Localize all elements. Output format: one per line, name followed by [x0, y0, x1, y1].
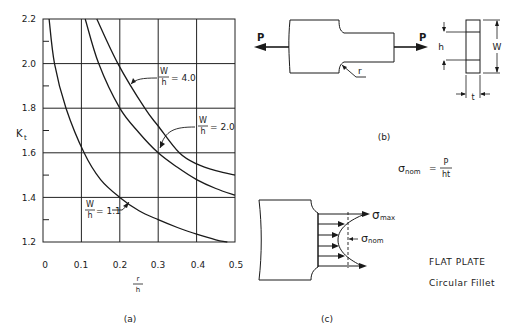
y-tick-1.2: 1.2 — [22, 237, 36, 247]
load-label-right: P — [419, 32, 426, 43]
svg-text:W: W — [160, 67, 168, 76]
x-axis-label: r h — [133, 275, 143, 294]
dim-w-label: W — [493, 42, 502, 52]
equals-sign: = — [429, 163, 437, 173]
annotation-w-h-1.1: W h = 1.1 — [85, 200, 129, 220]
sigma-nom-c-sub: nom — [368, 237, 384, 245]
y-tick-2.0: 2.0 — [22, 59, 37, 69]
y-axis-label: K t — [16, 128, 27, 142]
svg-text:= 2.0: = 2.0 — [210, 122, 235, 132]
curve-series-1 — [85, 19, 235, 195]
diagram-b-labels: P P r h W t (b) — [257, 32, 502, 142]
caption-line-2: Circular Fillet — [429, 278, 495, 288]
sigma-nom-sub: nom — [405, 168, 421, 176]
sigma-max-sub: max — [380, 214, 395, 222]
svg-text:= 1.1: = 1.1 — [96, 206, 121, 216]
svg-text:= 4.0: = 4.0 — [171, 73, 196, 83]
curve-series-2 — [97, 19, 235, 175]
figure-caption: FLAT PLATE Circular Fillet — [429, 257, 495, 288]
panel-label-b: (b) — [378, 132, 391, 142]
cross-section — [466, 20, 480, 73]
x-tick-0.2: 0.2 — [113, 260, 127, 270]
svg-text:W: W — [86, 200, 94, 209]
y-label-sub: t — [24, 134, 27, 142]
y-tick-2.2: 2.2 — [22, 14, 36, 24]
nominal-stress-formula: σ nom = P ht — [398, 158, 452, 179]
svg-text:h: h — [87, 211, 92, 220]
arrowhead-right-icon — [416, 43, 428, 51]
arrowhead-left-icon — [254, 43, 266, 51]
chart-a: 2.2 2.0 1.8 1.6 1.4 1.2 K t 0 0.1 0.2 0.… — [16, 14, 243, 324]
diagram-b — [254, 20, 500, 98]
sigma-nom-symbol: σ — [398, 162, 405, 175]
x-tick-0.1: 0.1 — [74, 260, 88, 270]
x-tick-0.4: 0.4 — [191, 260, 206, 270]
y-tick-labels: 2.2 2.0 1.8 1.6 1.4 1.2 — [22, 14, 37, 247]
y-tick-1.4: 1.4 — [22, 193, 37, 203]
x-label-num: r — [137, 275, 140, 283]
svg-text:h: h — [200, 127, 205, 136]
fillet-arrow-icon — [342, 65, 347, 70]
dim-t-label: t — [471, 93, 474, 102]
grid — [43, 19, 235, 242]
y-tick-1.8: 1.8 — [22, 103, 37, 113]
x-label-den: h — [136, 286, 140, 294]
load-label-left: P — [257, 32, 264, 43]
y-tick-1.6: 1.6 — [22, 148, 37, 158]
fillet-label: r — [358, 66, 362, 76]
annotation-w-h-4: W h = 4.0 — [131, 67, 196, 87]
x-tick-0: 0 — [42, 260, 48, 270]
dim-h-label: h — [438, 42, 444, 52]
formula-numerator: P — [444, 158, 449, 167]
diagram-c — [259, 200, 370, 280]
sigma-max-symbol: σ — [372, 208, 380, 222]
x-tick-0.5: 0.5 — [229, 260, 243, 270]
panel-label-a: (a) — [124, 314, 137, 324]
sigma-nom-c-symbol: σ — [361, 232, 368, 245]
svg-text:W: W — [199, 116, 207, 125]
x-tick-labels: 0 0.1 0.2 0.3 0.4 0.5 — [42, 260, 243, 270]
figure-canvas: 2.2 2.0 1.8 1.6 1.4 1.2 K t 0 0.1 0.2 0.… — [0, 0, 516, 332]
curves — [49, 19, 235, 242]
plate-outline — [289, 20, 394, 73]
panel-label-c: (c) — [321, 314, 333, 324]
formula-denominator: ht — [442, 170, 450, 179]
y-label-k: K — [16, 128, 23, 139]
x-tick-0.3: 0.3 — [151, 260, 165, 270]
plate-section-outline — [259, 200, 318, 280]
svg-text:h: h — [161, 78, 166, 87]
plot-frame — [43, 19, 235, 242]
caption-line-1: FLAT PLATE — [429, 257, 486, 267]
